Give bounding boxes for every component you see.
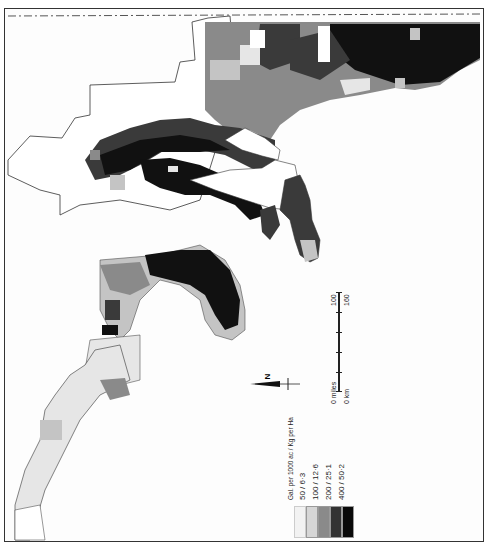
- legend-label-2: 100 / 12·6: [311, 464, 320, 500]
- legend-label-4: 400 / 50·2: [337, 464, 346, 500]
- region-sw-tip: [15, 505, 45, 540]
- legend-swatch-0: [294, 506, 306, 538]
- north-label: N: [263, 374, 272, 380]
- boundary-line: [8, 14, 480, 16]
- legend-label-3: 200 / 25·1: [324, 464, 333, 500]
- choropleth-map: [0, 0, 490, 548]
- north-arrow-icon: [250, 378, 300, 390]
- island: [260, 205, 280, 240]
- region-sw-cell-2: [100, 378, 130, 400]
- scale-km-start: 0 km: [343, 389, 350, 404]
- scale-miles-start: 0 miles: [330, 382, 337, 404]
- legend-swatch-4: [342, 506, 354, 538]
- peninsula-tip: [300, 240, 318, 262]
- region-sw-cell: [40, 420, 62, 440]
- legend-swatch-2: [318, 506, 330, 538]
- legend-label-1: 50 / 6·3: [298, 473, 307, 500]
- legend-swatch-3: [330, 506, 342, 538]
- legend-swatch-1: [306, 506, 318, 538]
- legend-title: Gal. per 1000 ac / Kg per Ha: [287, 417, 294, 500]
- scale-bar: [338, 292, 340, 392]
- scale-miles-end: 100: [330, 294, 337, 306]
- scale-km-end: 160: [343, 294, 350, 306]
- region-upper: [205, 22, 480, 140]
